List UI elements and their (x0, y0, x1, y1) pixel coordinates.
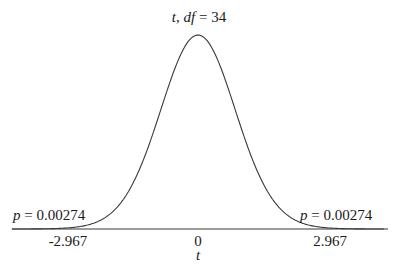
right-p-var: p (300, 207, 308, 223)
left-p-value: = 0.00274 (21, 207, 86, 223)
x-axis-label: t (196, 248, 200, 263)
chart-title: t, df = 34 (172, 10, 226, 25)
right-tail-p-annotation: p = 0.00274 (300, 208, 372, 223)
title-df-value: 34 (211, 9, 226, 25)
title-eq: = (195, 9, 211, 25)
density-curve (12, 35, 384, 229)
chart-container: t, df = 34 p = 0.00274 p = 0.00274 -2.96… (0, 0, 398, 274)
left-tail-p-annotation: p = 0.00274 (13, 208, 85, 223)
x-tick-neg-critical: -2.967 (49, 234, 88, 249)
left-p-var: p (13, 207, 21, 223)
x-tick-pos-critical: 2.967 (313, 234, 347, 249)
title-df-label: df (184, 9, 196, 25)
right-p-value: = 0.00274 (308, 207, 373, 223)
title-sep: , (176, 9, 184, 25)
